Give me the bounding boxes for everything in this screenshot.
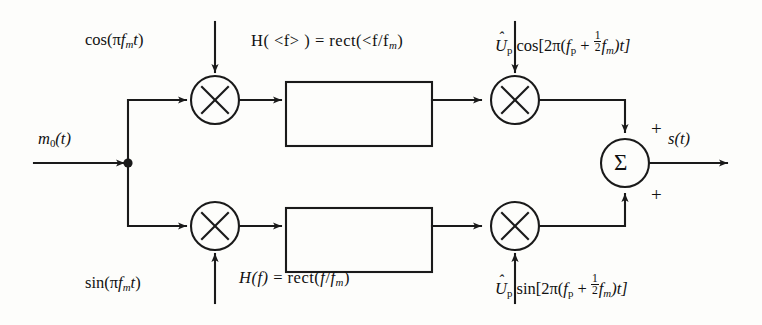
filter-label-top: H( <f> ) = rect(<f/fm): [251, 33, 403, 51]
output-signal-label: s(t): [668, 131, 690, 148]
carrier-top-left-pi: π: [113, 30, 121, 49]
carrier-top-right-amp-sub: p: [507, 44, 512, 56]
carrier-bottom-right-amp: ˆU: [495, 281, 507, 298]
carrier-bottom-right-plus: +: [577, 279, 586, 298]
filter-bottom-rect: rect(: [288, 268, 321, 287]
summer-plus-top: +: [651, 119, 662, 138]
carrier-top-left-close: ): [138, 30, 144, 49]
carrier-top-right-amp-hat: ˆ: [498, 30, 503, 46]
summer-plus-bottom: +: [651, 185, 662, 204]
filter-label-bottom: H(f) = rect(f/fm): [239, 270, 350, 288]
block-diagram-canvas: Σ + + m0(t) s(t) cos(πfmt) sin(πfmt) H( …: [0, 0, 762, 325]
wire-split-down: [128, 163, 186, 226]
carrier-top-right-fsub: p: [571, 44, 576, 56]
carrier-bottom-left-fsub: m: [123, 281, 131, 293]
summer-sigma-glyph: Σ: [614, 151, 627, 174]
output-signal-time: (t): [674, 129, 690, 148]
carrier-bottom-right-open: [2π(: [536, 279, 564, 298]
carrier-top-right-plus: +: [580, 36, 589, 55]
carrier-bottom-right-half-den: 2: [591, 285, 599, 296]
filter-top-close: ): [397, 31, 403, 50]
filter-box-top: [286, 82, 432, 146]
filter-bottom-close: ): [344, 268, 350, 287]
wire-split-up: [128, 100, 186, 163]
filter-top-equals: =: [315, 31, 325, 50]
carrier-bottom-right-amp-hat: ˆ: [498, 273, 503, 289]
wire-mult-to-summer-top: [539, 100, 625, 132]
carrier-top-right-f2sub: m: [606, 44, 614, 56]
carrier-bottom-right-fn: sin: [516, 279, 535, 298]
input-signal-time: (t): [55, 129, 71, 148]
filter-top-H: H: [251, 31, 263, 50]
filter-bottom-arg-sub: m: [336, 276, 344, 288]
filter-bottom-arg: (f): [251, 268, 268, 287]
input-signal-m: m: [38, 129, 50, 148]
carrier-bottom-right-f2sub: m: [603, 287, 611, 299]
filter-top-arg-a: <f: [362, 31, 378, 50]
wire-mult-to-summer-bottom: [539, 194, 625, 226]
carrier-top-left-fn: cos: [85, 30, 107, 49]
carrier-label-top-left: cos(πfmt): [85, 32, 143, 50]
carrier-bottom-right-close: )t]: [611, 279, 628, 298]
filter-box-bottom: [286, 208, 432, 272]
carrier-bottom-right-half: 12: [591, 273, 599, 296]
carrier-bottom-left-fn: sin: [85, 273, 104, 292]
carrier-bottom-right-fsub: p: [568, 287, 573, 299]
filter-top-rect: rect(: [329, 31, 362, 50]
carrier-top-right-open: [2π(: [538, 36, 566, 55]
carrier-bottom-left-close: ): [135, 273, 141, 292]
carrier-top-right-half-den: 2: [594, 42, 602, 53]
carrier-top-right-half: 12: [594, 30, 602, 53]
carrier-label-bottom-left: sin(πfmt): [85, 275, 141, 293]
carrier-top-right-close: )t]: [614, 36, 631, 55]
carrier-label-top-right: ˆUp cos[2π(fp + 12fm)t]: [495, 31, 630, 56]
carrier-bottom-right-amp-sub: p: [507, 287, 512, 299]
input-signal-label: m0(t): [38, 131, 71, 149]
carrier-bottom-left-pi: π: [110, 273, 118, 292]
carrier-top-right-amp: ˆU: [495, 38, 507, 55]
carrier-label-bottom-right: ˆUp sin[2π(fp + 12fm)t]: [495, 274, 628, 299]
filter-bottom-equals: =: [273, 268, 283, 287]
filter-bottom-H: H: [239, 268, 251, 287]
filter-top-arg: ( <f> ): [263, 31, 310, 50]
carrier-top-right-fn: cos: [516, 36, 538, 55]
